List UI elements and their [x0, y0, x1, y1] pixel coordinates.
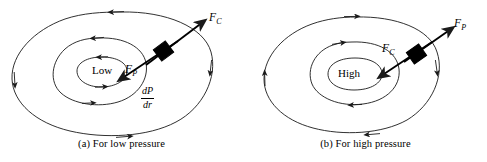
pressure-center-label-high: High — [338, 68, 360, 79]
panel-caption-a: (a) For low pressure — [0, 138, 243, 149]
pressure-gradient-label: dP dr — [141, 86, 154, 110]
gradient-numerator: dP — [141, 86, 154, 97]
isobar-outer — [12, 12, 213, 136]
panel-low-pressure: Low FP FC dP dr (a) For low pressure — [0, 0, 243, 162]
pressure-center-label-low: Low — [92, 65, 112, 76]
force-label-fp: FP — [454, 18, 466, 30]
panel-high-pressure: High FC FP (b) For high pressure — [244, 0, 487, 162]
gradient-denominator: dr — [141, 99, 154, 110]
pressure-force-balance-figure: Low FP FC dP dr (a) For low pressure — [0, 0, 487, 162]
force-label-fc: FC — [209, 12, 221, 24]
force-label-fc: FC — [382, 43, 394, 55]
force-label-fp: FP — [125, 64, 137, 76]
panel-caption-b: (b) For high pressure — [244, 138, 487, 149]
